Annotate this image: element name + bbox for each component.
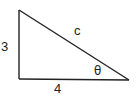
angle-theta-label: θ bbox=[94, 65, 101, 77]
horizontal-side-label: 4 bbox=[54, 82, 61, 95]
right-triangle-diagram bbox=[0, 0, 137, 98]
hypotenuse bbox=[19, 10, 129, 80]
vertical-side-label: 3 bbox=[1, 40, 8, 53]
hypotenuse-label: c bbox=[74, 24, 81, 37]
horizontal-leg bbox=[19, 79, 129, 80]
